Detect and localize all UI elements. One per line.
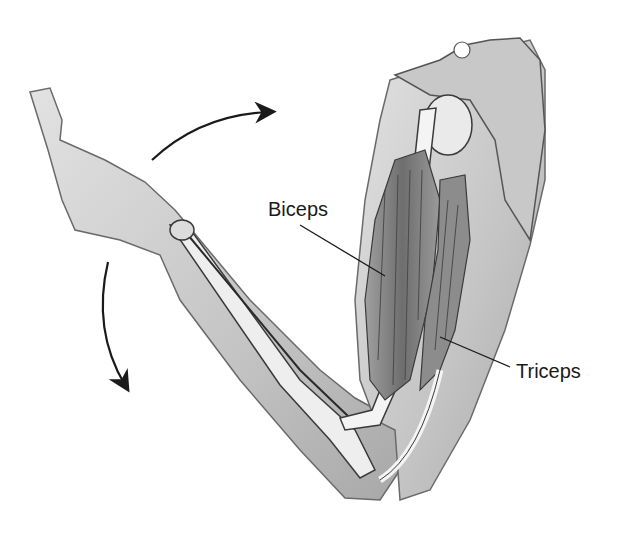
biceps-label: Biceps (268, 198, 328, 221)
forearm (30, 88, 400, 500)
arm-diagram: Biceps Triceps (0, 0, 626, 546)
triceps-label: Triceps (516, 360, 581, 383)
upper-motion-arrow (152, 112, 268, 160)
lower-motion-arrow (103, 262, 125, 385)
